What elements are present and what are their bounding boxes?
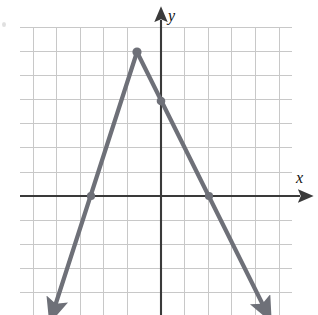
x-axis-label: x [296,170,303,186]
graph-figure: y x [0,0,318,315]
grid-lines [20,27,292,315]
marked-points [87,47,213,200]
point-vertex [132,47,141,56]
point-y-intercept [157,97,166,106]
curve-left-branch [56,52,137,303]
point-right-x-intercept [205,192,213,200]
curve-right-branch [137,52,262,303]
point-left-x-intercept [87,192,95,200]
function-curve [56,52,262,303]
coordinate-plane-svg [0,0,318,315]
y-axis-label: y [168,8,175,24]
axes [20,20,300,315]
